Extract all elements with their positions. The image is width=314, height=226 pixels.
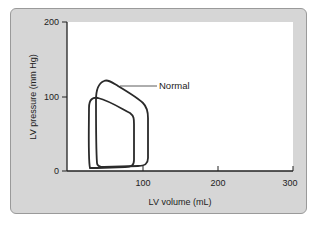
x-axis-title: LV volume (mL) <box>149 197 212 207</box>
normal-label: Normal <box>159 80 190 91</box>
y-axis-title: LV pressure (mm Hg) <box>28 54 38 139</box>
pressure-volume-chart: 200 100 0 100 200 300 LV volume (mL) LV … <box>0 0 314 226</box>
x-tick-label: 300 <box>282 178 297 188</box>
y-tick-label: 200 <box>44 17 59 27</box>
y-tick-label: 0 <box>54 166 59 176</box>
plot-area <box>67 22 293 171</box>
y-tick-label: 100 <box>44 92 59 102</box>
x-tick-label: 100 <box>135 178 150 188</box>
x-tick-label: 200 <box>210 178 225 188</box>
